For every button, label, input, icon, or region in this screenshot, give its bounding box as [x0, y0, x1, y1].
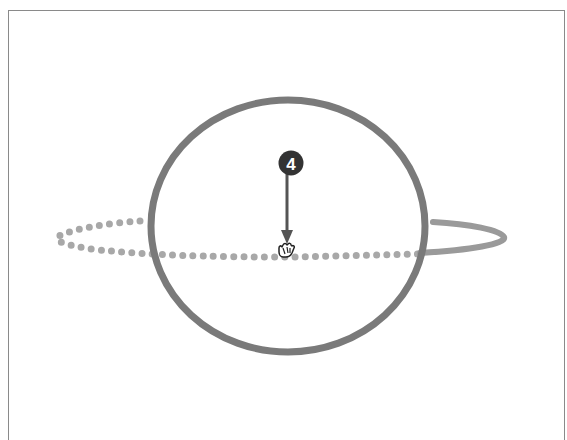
step-badge: 4 [279, 151, 304, 176]
step-badge-label: 4 [286, 155, 296, 174]
callout-arrow [281, 170, 293, 244]
orbit-path-solid [420, 222, 504, 253]
hand-grab-cursor-icon [279, 243, 294, 257]
orbit-path-dotted [57, 221, 420, 257]
